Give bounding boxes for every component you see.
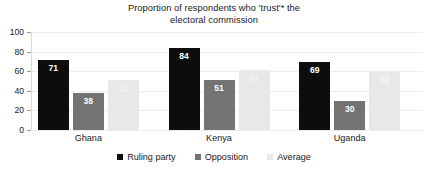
y-axis-tick-label: 20	[0, 105, 24, 115]
bar-chart: Proportion of respondents who 'trust'* t…	[0, 0, 428, 173]
bar-value-label: 30	[334, 104, 365, 114]
y-axis-tick-mark	[27, 52, 31, 53]
bar-value-label: 69	[299, 65, 330, 75]
bar-value-label: 51	[108, 83, 139, 93]
legend-label: Opposition	[205, 152, 248, 162]
bar: 51	[108, 80, 139, 130]
plot-area: 713851845161693059	[31, 32, 423, 130]
legend-item[interactable]: Average	[267, 152, 311, 162]
y-axis-tick-mark	[27, 32, 31, 33]
bar: 71	[38, 60, 69, 130]
legend-swatch-icon	[117, 154, 123, 160]
y-axis-tick-label: 80	[0, 47, 24, 57]
bar: 38	[73, 93, 104, 130]
legend-item[interactable]: Ruling party	[117, 152, 176, 162]
chart-legend: Ruling partyOppositionAverage	[0, 152, 428, 162]
legend-label: Ruling party	[127, 152, 176, 162]
chart-title-line-2: electoral commission	[170, 15, 258, 25]
legend-swatch-icon	[195, 154, 201, 160]
bar: 84	[169, 48, 200, 130]
bar-value-label: 61	[239, 73, 270, 83]
bar-group: 693059	[299, 32, 400, 130]
y-axis-tick-mark	[27, 130, 31, 131]
bar: 61	[239, 70, 270, 130]
y-axis-tick-mark	[27, 91, 31, 92]
y-axis-tick-mark	[27, 71, 31, 72]
y-axis-tick-label: 100	[0, 27, 24, 37]
bar: 59	[369, 72, 400, 130]
bar-value-label: 38	[73, 96, 104, 106]
bar-value-label: 71	[38, 63, 69, 73]
chart-title: Proportion of respondents who 'trust'* t…	[95, 2, 333, 26]
y-axis-tick-label: 0	[0, 125, 24, 135]
bar-value-label: 51	[204, 83, 235, 93]
bar: 30	[334, 101, 365, 130]
y-axis-tick-mark	[27, 110, 31, 111]
bar-group: 845161	[169, 32, 270, 130]
x-axis-category-label: Kenya	[169, 133, 270, 143]
chart-title-line-1: Proportion of respondents who 'trust'* t…	[128, 3, 300, 13]
legend-swatch-icon	[267, 154, 273, 160]
bar-value-label: 59	[369, 75, 400, 85]
bar: 69	[299, 62, 330, 130]
x-axis-category-label: Ghana	[38, 133, 139, 143]
y-axis-tick-label: 40	[0, 86, 24, 96]
bar-value-label: 84	[169, 51, 200, 61]
x-axis-category-label: Uganda	[299, 133, 400, 143]
legend-item[interactable]: Opposition	[195, 152, 248, 162]
bar-group: 713851	[38, 32, 139, 130]
gridline	[31, 130, 423, 131]
bar: 51	[204, 80, 235, 130]
y-axis-tick-label: 60	[0, 66, 24, 76]
legend-label: Average	[277, 152, 311, 162]
